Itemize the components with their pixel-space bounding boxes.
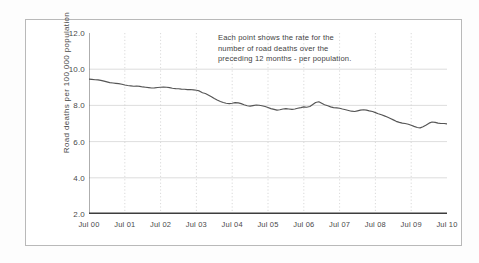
y-axis-title: Road deaths per 100 000 population xyxy=(62,0,71,173)
x-axis-tick-label: Jul 01 xyxy=(114,220,135,229)
annotation-line-2: number of road deaths over the xyxy=(218,44,384,55)
chart-annotation: Each point shows the rate for the number… xyxy=(218,33,384,65)
y-axis-tick-label: 10.0 xyxy=(69,65,85,74)
x-axis-tick-label: Jul 03 xyxy=(186,220,207,229)
x-axis-tick-label: Jul 09 xyxy=(401,220,422,229)
y-axis-tick-label: 2.0 xyxy=(73,210,85,219)
x-axis-tick-label: Jul 04 xyxy=(222,220,243,229)
figure-frame: Road deaths per 100 000 population 2.04.… xyxy=(25,19,462,246)
y-axis-tick-label: 4.0 xyxy=(73,173,85,182)
data-line-series xyxy=(89,79,447,128)
x-axis-tick-label: Jul 06 xyxy=(293,220,314,229)
x-axis-tick-label: Jul 07 xyxy=(329,220,350,229)
x-axis-tick-label: Jul 02 xyxy=(150,220,171,229)
y-axis-tick-label: 12.0 xyxy=(69,29,85,38)
x-axis-tick-label: Jul 10 xyxy=(436,220,457,229)
y-axis-tick-label: 6.0 xyxy=(73,137,85,146)
horizontal-gridlines xyxy=(89,69,447,178)
x-axis-tick-label: Jul 08 xyxy=(365,220,386,229)
x-axis-tick-label: Jul 05 xyxy=(257,220,278,229)
annotation-line-3: preceding 12 months - per population. xyxy=(218,54,384,65)
x-axis-tick-label: Jul 00 xyxy=(78,220,99,229)
screenshot-root: Road deaths per 100 000 population 2.04.… xyxy=(0,0,479,263)
annotation-line-1: Each point shows the rate for the xyxy=(218,33,384,44)
y-axis-tick-label: 8.0 xyxy=(73,101,85,110)
